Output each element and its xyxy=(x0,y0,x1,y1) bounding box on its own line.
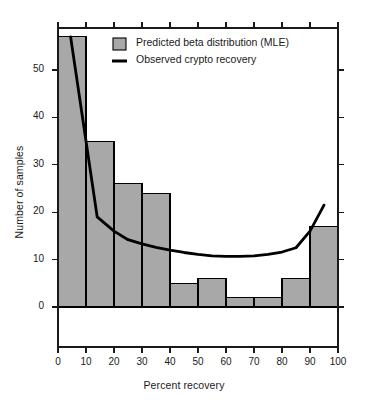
x-axis-tick-label: 60 xyxy=(213,356,239,367)
y-axis-tick-label: 30 xyxy=(20,158,44,169)
histogram-bar xyxy=(282,279,310,307)
y-axis-title: Number of samples xyxy=(13,127,25,257)
y-axis-tick-label: 0 xyxy=(20,300,44,311)
x-axis-tick-label: 80 xyxy=(269,356,295,367)
x-axis-tick-label: 30 xyxy=(129,356,155,367)
legend-label-predicted: Predicted beta distribution (MLE) xyxy=(136,36,289,48)
histogram-bar xyxy=(198,279,226,307)
legend-label-observed: Observed crypto recovery xyxy=(136,53,256,65)
y-axis-tick-label: 50 xyxy=(20,63,44,74)
x-axis-tick-label: 70 xyxy=(241,356,267,367)
y-axis-tick-label: 10 xyxy=(20,253,44,264)
x-axis-tick-label: 10 xyxy=(73,356,99,367)
y-axis-tick-label: 40 xyxy=(20,110,44,121)
chart-figure: Percent recovery Number of samples 01020… xyxy=(0,0,368,404)
histogram-bar xyxy=(310,226,338,307)
legend-swatch-predicted xyxy=(113,38,126,50)
histogram-bar xyxy=(254,298,282,307)
histogram-bar xyxy=(170,283,198,307)
x-axis-tick-label: 20 xyxy=(101,356,127,367)
histogram-bar xyxy=(114,184,142,307)
x-axis-tick-label: 0 xyxy=(45,356,71,367)
x-axis-tick-label: 50 xyxy=(185,356,211,367)
histogram-bar xyxy=(226,298,254,307)
x-axis-tick-label: 90 xyxy=(297,356,323,367)
x-axis-tick-label: 100 xyxy=(325,356,351,367)
y-axis-tick-label: 20 xyxy=(20,205,44,216)
x-axis-tick-label: 40 xyxy=(157,356,183,367)
x-axis-title: Percent recovery xyxy=(0,379,368,391)
histogram-bar xyxy=(58,37,86,307)
